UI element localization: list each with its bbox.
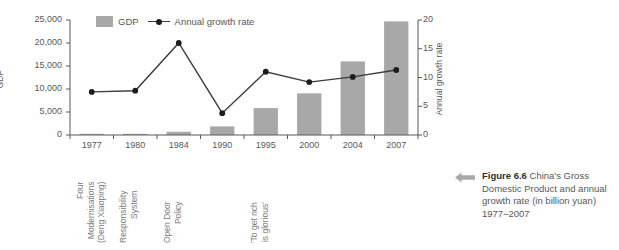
growth-rate-point-2004	[350, 74, 356, 80]
growth-rate-point-1984	[176, 40, 182, 46]
y-axis-left-title: GDP	[0, 70, 5, 89]
y-axis-left-tick: 20,000	[18, 38, 62, 47]
x-axis-tick-2007: 2007	[374, 140, 418, 150]
x-annotation-1980: ResponsibilitySystem	[118, 191, 139, 243]
legend-label-gdp: GDP	[118, 16, 139, 27]
arrow-left-icon	[455, 172, 475, 183]
axis-left-bottom-spine	[70, 20, 418, 135]
caption-figure-number: Figure 6.6	[482, 170, 527, 181]
legend-item-growth-rate: Annual growth rate	[148, 16, 255, 27]
y-axis-right-tick: 10	[423, 73, 463, 82]
x-annotation-line: Open Door	[162, 201, 173, 243]
growth-rate-point-1990	[219, 110, 225, 116]
x-axis-tick-2000: 2000	[287, 140, 331, 150]
x-annotation-1995: 'To get richis glorious'	[249, 202, 270, 243]
y-axis-left-tick: 25,000	[18, 15, 62, 24]
x-annotation-line: is glorious'	[259, 202, 270, 243]
bar-1995	[254, 108, 278, 135]
y-axis-right-tick: 15	[423, 44, 463, 53]
x-axis-tick-2004: 2004	[331, 140, 375, 150]
y-axis-left-tick: 0	[18, 130, 62, 139]
x-annotation-line: Four	[75, 182, 86, 243]
plot-surface	[0, 0, 470, 250]
growth-rate-point-1977	[89, 89, 95, 95]
growth-rate-point-2000	[306, 79, 312, 85]
y-axis-left-tick: 10,000	[18, 84, 62, 93]
bar-2007	[384, 21, 408, 135]
figure-6-6: GDP Annual growth rate GDP Annual growth…	[0, 0, 619, 250]
legend-line-swatch-icon	[148, 17, 170, 26]
bar-1990	[210, 126, 234, 135]
x-axis-tick-1995: 1995	[244, 140, 288, 150]
x-annotation-1984: Open DoorPolicy	[162, 201, 183, 243]
legend-bar-swatch-icon	[96, 16, 113, 27]
x-annotation-line: (Deng Xiaoping)	[96, 182, 107, 243]
x-annotation-line: System	[129, 191, 140, 243]
figure-caption: Figure 6.6 China's Gross Domestic Produc…	[455, 170, 619, 220]
caption-text: Figure 6.6 China's Gross Domestic Produc…	[482, 170, 619, 220]
chart-legend: GDP Annual growth rate	[96, 16, 254, 27]
x-annotation-1977: FourModernisations(Deng Xiaoping)	[75, 182, 107, 243]
chart-canvas: GDP Annual growth rate GDP Annual growth…	[0, 0, 470, 250]
growth-rate-point-1995	[263, 69, 269, 75]
y-axis-left-tick: 5,000	[18, 107, 62, 116]
x-annotation-line: Responsibility	[118, 191, 129, 243]
y-axis-left-tick: 15,000	[18, 61, 62, 70]
legend-item-gdp: GDP	[96, 16, 139, 27]
growth-rate-point-1980	[132, 88, 138, 94]
legend-label-growth-rate: Annual growth rate	[175, 16, 255, 27]
y-axis-right-tick: 20	[423, 15, 463, 24]
bar-2004	[341, 61, 365, 135]
x-axis-tick-1984: 1984	[157, 140, 201, 150]
y-axis-right-tick: 5	[423, 101, 463, 110]
y-axis-right-tick: 0	[423, 130, 463, 139]
x-annotation-line: 'To get rich	[249, 202, 260, 243]
x-axis-tick-1990: 1990	[200, 140, 244, 150]
x-annotation-line: Policy	[172, 201, 183, 243]
growth-rate-point-2007	[393, 67, 399, 73]
x-annotation-line: Modernisations	[85, 182, 96, 243]
bar-2000	[297, 93, 321, 135]
x-axis-tick-1980: 1980	[113, 140, 157, 150]
x-axis-tick-1977: 1977	[70, 140, 114, 150]
